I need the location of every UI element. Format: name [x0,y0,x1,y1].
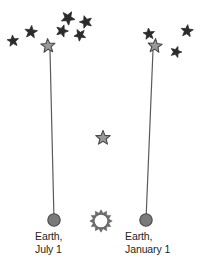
label-earth-july: Earth, July 1 [35,230,62,255]
label-earth-july-line2: July 1 [35,243,62,256]
nearby-star-group [96,130,110,144]
earth-january-marker [140,214,152,226]
sun-ray-3 [108,219,112,224]
label-earth-january-line1: Earth, [125,230,170,243]
nearby-star-icon [96,130,110,144]
sun-ray-9 [90,219,94,224]
bg-star-l2-icon [25,25,37,37]
parallax-diagram: Earth, July 1 Earth, January 1 [0,0,205,269]
apparent-star-july-icon [41,39,55,53]
bg-star-l1-icon [7,35,18,46]
sight-line-july [50,50,54,220]
bg-star-l3-icon [57,25,69,37]
sun-ray-6 [99,228,104,232]
sun-disc [94,214,108,228]
bg-star-r3-icon [171,47,182,58]
bg-star-l5-icon [74,30,86,42]
bg-star-r2-icon [181,25,193,37]
bg-star-r1-icon [143,28,154,39]
bg-star-l4-icon [61,12,75,25]
bg-star-l6-icon [79,16,91,29]
label-earth-july-line1: Earth, [35,230,62,243]
label-earth-january: Earth, January 1 [125,230,170,255]
sun-group [90,210,112,232]
parallax-illustration [0,0,205,269]
sight-line-january [146,50,153,220]
label-earth-january-line2: January 1 [125,243,170,256]
sun-ray-0 [99,210,104,214]
apparent-star-positions-group [41,39,162,53]
apparent-star-january-icon [148,39,162,53]
background-stars-group [7,12,193,58]
earth-july-marker [48,214,60,226]
